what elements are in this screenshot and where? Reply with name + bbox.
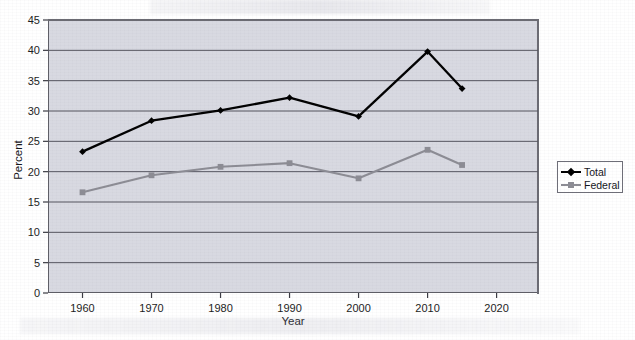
y-tick-label: 45: [28, 14, 40, 26]
legend-label-total: Total: [584, 166, 606, 178]
series-total-line: [83, 52, 463, 152]
y-tick-label: 25: [28, 135, 40, 147]
x-tick-label: 2000: [346, 302, 370, 314]
y-axis-title: Percent: [12, 139, 24, 179]
legend-item-total: Total: [561, 165, 622, 178]
x-tick-label: 1960: [70, 302, 94, 314]
y-tick-label: 20: [28, 166, 40, 178]
x-axis-title: Year: [281, 315, 304, 327]
x-tick-label: 2020: [484, 302, 508, 314]
y-tick-label: 40: [28, 44, 40, 56]
y-tick-label: 10: [28, 226, 40, 238]
line-chart: 051015202530354045 196019701980199020002…: [0, 0, 635, 340]
y-tick-label: 5: [34, 257, 40, 269]
y-tick-label: 15: [28, 196, 40, 208]
legend-swatch-total-icon: [561, 166, 581, 177]
y-tick-labels: 051015202530354045: [28, 14, 40, 299]
x-tick-label: 1980: [208, 302, 232, 314]
y-gridlines: [48, 50, 538, 262]
y-tick-label: 30: [28, 105, 40, 117]
x-tick-label: 1970: [139, 302, 163, 314]
x-tick-label: 2010: [415, 302, 439, 314]
legend-item-federal: Federal: [561, 178, 622, 191]
y-ticks: [43, 20, 48, 293]
series-federal-line: [83, 150, 463, 192]
x-ticks: [83, 293, 497, 298]
series-federal-markers: [80, 147, 465, 195]
x-tick-label: 1990: [277, 302, 301, 314]
legend-swatch-federal-icon: [561, 179, 581, 190]
legend-label-federal: Federal: [584, 179, 620, 191]
y-tick-label: 0: [34, 287, 40, 299]
chart-figure: 051015202530354045 196019701980199020002…: [0, 0, 635, 340]
x-tick-labels: 1960197019801990200020102020: [70, 302, 509, 314]
chart-legend: Total Federal: [557, 161, 623, 193]
y-tick-label: 35: [28, 75, 40, 87]
